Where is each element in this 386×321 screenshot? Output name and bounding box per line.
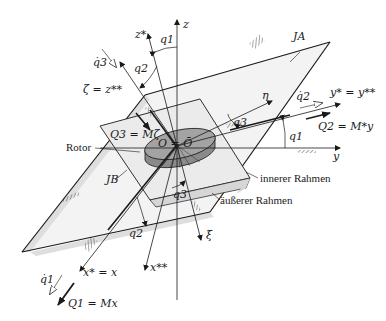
label-y: y [332, 150, 340, 163]
label-Q2-eq: Q2 = M*y [318, 120, 374, 133]
label-x-star-eq: x* = x [83, 266, 118, 279]
label-y-star-eq: y* = y** [329, 86, 376, 99]
label-q2-bottom: q2 [129, 227, 143, 240]
label-q3-bottom: q3 [173, 188, 187, 201]
label-q3-dot-top: q̇3 [93, 56, 107, 69]
gyroscope-diagram: z z* q1 q2 q̇3 ζ = z** JA η q̇2 y* = y**… [0, 0, 386, 321]
label-x-dstar: x** [150, 261, 168, 274]
label-q1-top: q1 [160, 33, 174, 46]
label-O-eq: O = Ō [158, 137, 192, 150]
label-rotor: Rotor [66, 141, 91, 153]
label-q1-right: q1 [289, 130, 303, 143]
label-Q3-eq: Q3 = Mζ [110, 128, 160, 141]
label-xi: ξ [206, 229, 213, 242]
label-z-star: z* [134, 28, 147, 41]
label-q3-right: q3 [233, 116, 247, 129]
label-eta: η [262, 89, 269, 102]
label-J-B: JB [104, 173, 119, 186]
label-q1-dot: q̇1 [40, 273, 54, 286]
label-zeta-eq: ζ = z** [83, 83, 122, 96]
label-z: z [182, 18, 189, 31]
label-outer-frame: äußerer Rahmen [220, 194, 293, 206]
label-q2-dot: q̇2 [296, 90, 310, 103]
label-Q1-eq: Q1 = Mx [68, 297, 118, 310]
label-inner-frame: innerer Rahmen [260, 172, 331, 184]
label-J-A: JA [291, 30, 305, 43]
label-q2-top: q2 [134, 62, 148, 75]
